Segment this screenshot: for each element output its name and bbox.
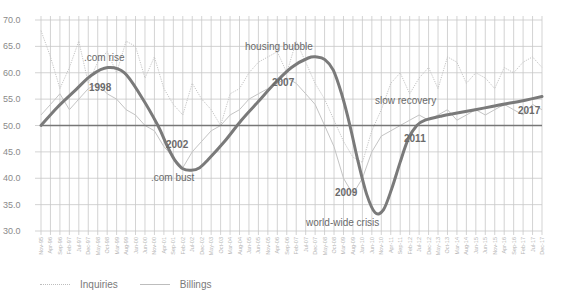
x-tick-label: Mar-09 [340,237,346,254]
x-tick-label: Feb-02 [180,237,186,254]
legend-item-inquiries: Inquiries [40,279,118,290]
year-annotation: 2009 [335,187,358,198]
x-tick-label: May-03 [208,237,214,255]
y-tick-label: 40.0 [3,173,21,183]
y-tick-label: 55.0 [3,94,21,104]
x-tick-label: Dec-02 [199,237,205,255]
x-tick-label: Aug-04 [237,237,243,255]
x-tick-label: Mar-04 [227,237,233,254]
x-tick-label: Oct-13 [444,237,450,254]
x-tick-label: Feb-07 [293,237,299,254]
x-tick-label: Feb-97 [66,237,72,254]
x-tick-label: Oct-98 [104,237,110,254]
x-tick-label: Sep-96 [57,237,63,255]
y-tick-label: 65.0 [3,41,21,51]
x-tick-label: Sep-06 [284,237,290,255]
event-annotation: world-wide crisis [305,217,379,228]
year-annotation: 2007 [272,77,295,88]
billings-series-line [41,78,542,194]
event-annotation: housing bubble [245,41,313,52]
x-tick-label: Nov-10 [378,237,384,255]
x-tick-label: May-13 [435,237,441,255]
y-tick-label: 70.0 [3,15,21,25]
year-annotation: 2017 [518,105,541,116]
x-tick-label: Dec-17 [539,237,545,255]
legend-label-billings: Billings [180,279,212,290]
y-tick-label: 60.0 [3,68,21,78]
x-tick-label: Mar-99 [114,237,120,254]
legend-label-inquiries: Inquiries [80,279,118,290]
x-tick-label: Dec-07 [312,237,318,255]
x-tick-label: Apr-01 [161,237,167,254]
x-tick-label: Jun-05 [255,237,261,254]
x-tick-label: Jul-07 [303,237,309,252]
y-tick-label: 35.0 [3,200,21,210]
x-tick-label: Sep-01 [170,237,176,255]
x-tick-label: Jun-00 [142,237,148,254]
x-tick-label: Aug-99 [123,237,129,255]
y-tick-label: 30.0 [3,226,21,236]
x-tick-label: May-08 [322,237,328,255]
x-tick-label: Nov-15 [492,237,498,255]
chart-container: 70.065.060.055.050.045.040.035.030.0Nov-… [0,0,570,306]
x-tick-label: Apr-16 [501,237,507,254]
y-tick-label: 50.0 [3,121,21,131]
x-tick-label: Mar-14 [454,237,460,254]
x-tick-label: Oct-03 [218,237,224,254]
y-tick-label: 45.0 [3,147,21,157]
x-tick-label: Jun-10 [369,237,375,254]
x-tick-label: Sep-11 [397,237,403,254]
x-tick-label: Dec-97 [85,237,91,255]
event-annotation: .com bust [151,172,195,183]
x-tick-label: Nov-00 [151,237,157,255]
line-chart-plot: 70.065.060.055.050.045.040.035.030.0Nov-… [0,0,570,306]
solid-line-swatch-icon [140,284,170,285]
dotted-line-swatch-icon [40,284,70,285]
year-annotation: 2011 [404,133,426,144]
event-annotation: .com rise [84,52,125,63]
year-annotation: 1998 [89,82,112,93]
x-tick-label: Oct-08 [331,237,337,254]
x-tick-label: Sep-16 [511,237,517,255]
x-tick-label: Aug-09 [350,237,356,255]
x-tick-label: Feb-17 [520,237,526,254]
year-annotation: 2002 [166,139,189,150]
x-tick-label: Feb-12 [407,237,413,254]
x-tick-label: Apr-06 [274,237,280,254]
x-tick-label: Jul-02 [189,237,195,252]
x-tick-label: Jan-00 [133,237,139,254]
legend: Inquiries Billings [40,279,234,290]
x-tick-label: Jun-15 [482,237,488,254]
x-tick-label: Jan-15 [473,237,479,254]
event-annotation: slow recovery [375,95,436,106]
x-tick-label: Jul-12 [416,237,422,252]
x-tick-label: May-98 [95,237,101,255]
x-tick-label: Jan-05 [246,237,252,254]
x-tick-label: Jul-97 [76,237,82,252]
x-tick-label: Jul-17 [530,237,536,252]
x-tick-label: Aug-14 [463,237,469,255]
x-tick-label: Nov-95 [38,237,44,255]
x-tick-label: Apr-11 [388,237,394,253]
x-tick-label: Jan-10 [359,237,365,254]
x-tick-label: Dec-12 [426,237,432,255]
legend-item-billings: Billings [140,279,212,290]
x-tick-label: Apr-96 [47,237,53,254]
x-tick-label: Nov-05 [265,237,271,255]
